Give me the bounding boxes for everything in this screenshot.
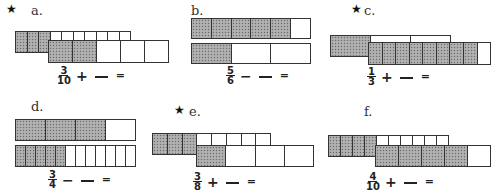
star-icon: ★ bbox=[174, 103, 185, 117]
empty-cell bbox=[65, 146, 75, 166]
answer-blank[interactable] bbox=[404, 182, 417, 184]
shaded-cell bbox=[45, 146, 55, 166]
operator: − bbox=[62, 172, 74, 188]
operator: + bbox=[381, 69, 393, 85]
shaded-cell bbox=[35, 146, 45, 166]
empty-cell bbox=[105, 120, 135, 140]
shaded-cell bbox=[72, 41, 96, 62]
shaded-cell bbox=[16, 120, 45, 140]
empty-cell bbox=[290, 19, 310, 38]
fraction: 56 bbox=[226, 66, 235, 85]
shaded-cell bbox=[197, 146, 225, 166]
expression: 34 − = bbox=[48, 170, 111, 189]
answer-blank[interactable] bbox=[259, 76, 272, 78]
denominator: 8 bbox=[194, 182, 201, 191]
problem-label: c. bbox=[364, 3, 375, 18]
answer-blank[interactable] bbox=[81, 180, 94, 182]
shaded-cell bbox=[331, 36, 370, 56]
shaded-cell bbox=[250, 19, 270, 38]
empty-cell bbox=[95, 146, 105, 166]
star-icon: ★ bbox=[351, 2, 362, 16]
empty-cell bbox=[255, 146, 284, 166]
fraction-bar-fourths bbox=[196, 145, 314, 167]
empty-cell bbox=[467, 146, 490, 166]
shaded-cell bbox=[421, 146, 444, 166]
shaded-cell bbox=[395, 43, 409, 64]
operator: + bbox=[207, 174, 219, 190]
problem-label: e. bbox=[189, 104, 201, 119]
shaded-cell bbox=[444, 146, 467, 166]
problem-label: b. bbox=[191, 3, 203, 18]
denominator: 10 bbox=[57, 76, 71, 85]
operator: + bbox=[76, 68, 88, 84]
shaded-cell bbox=[449, 43, 463, 64]
shaded-cell bbox=[376, 146, 398, 166]
shaded-cell bbox=[49, 41, 72, 62]
shaded-cell bbox=[422, 43, 436, 64]
equals-sign: = bbox=[102, 173, 111, 186]
empty-cell bbox=[96, 41, 120, 62]
expression: 38 + = bbox=[193, 172, 256, 191]
fraction-bar-fourths bbox=[15, 119, 136, 141]
shaded-cell bbox=[409, 43, 423, 64]
shaded-cell bbox=[192, 44, 231, 63]
shaded-cell bbox=[45, 120, 75, 140]
fraction: 410 bbox=[366, 172, 380, 191]
shaded-cell bbox=[369, 43, 382, 64]
denominator: 6 bbox=[227, 76, 234, 85]
shaded-cell bbox=[192, 19, 211, 38]
equals-sign: = bbox=[280, 69, 289, 82]
fraction-bar-sixths bbox=[191, 18, 311, 39]
shaded-cell bbox=[329, 136, 340, 156]
fraction-bar-ninths bbox=[368, 42, 491, 65]
problem-label: d. bbox=[31, 99, 43, 114]
denominator: 3 bbox=[368, 77, 375, 86]
fraction: 34 bbox=[48, 170, 57, 189]
equals-sign: = bbox=[421, 70, 430, 83]
denominator: 10 bbox=[366, 182, 380, 191]
fraction-bar-twelfths bbox=[15, 145, 136, 167]
equals-sign: = bbox=[425, 175, 434, 188]
shaded-cell bbox=[270, 19, 290, 38]
empty-cell bbox=[115, 146, 125, 166]
answer-blank[interactable] bbox=[400, 77, 413, 79]
shaded-cell bbox=[382, 43, 396, 64]
fraction: 13 bbox=[367, 67, 376, 86]
empty-cell bbox=[120, 41, 144, 62]
answer-blank[interactable] bbox=[226, 182, 239, 184]
fraction: 38 bbox=[193, 172, 202, 191]
shaded-cell bbox=[436, 43, 450, 64]
operator: − bbox=[240, 68, 252, 84]
empty-cell bbox=[144, 41, 168, 62]
empty-cell bbox=[231, 44, 271, 63]
equals-sign: = bbox=[247, 175, 256, 188]
shaded-cell bbox=[211, 19, 231, 38]
empty-cell bbox=[284, 146, 313, 166]
shaded-cell bbox=[27, 32, 39, 52]
answer-blank[interactable] bbox=[95, 76, 108, 78]
denominator: 4 bbox=[49, 180, 56, 189]
expression: 410 + = bbox=[366, 172, 434, 191]
shaded-cell bbox=[25, 146, 35, 166]
problem-label: a. bbox=[31, 3, 43, 18]
empty-cell bbox=[75, 146, 85, 166]
expression: 13 + = bbox=[367, 67, 430, 86]
empty-cell bbox=[477, 43, 491, 64]
shaded-cell bbox=[398, 146, 421, 166]
shaded-cell bbox=[55, 146, 65, 166]
star-icon: ★ bbox=[6, 2, 17, 16]
shaded-cell bbox=[231, 19, 251, 38]
shaded-cell bbox=[182, 134, 197, 154]
fraction: 310 bbox=[57, 66, 71, 85]
shaded-cell bbox=[16, 32, 27, 52]
empty-cell bbox=[105, 146, 115, 166]
empty-cell bbox=[270, 44, 310, 63]
empty-cell bbox=[85, 146, 95, 166]
empty-cell bbox=[225, 146, 254, 166]
empty-cell bbox=[125, 146, 135, 166]
operator: + bbox=[385, 174, 397, 190]
shaded-cell bbox=[167, 134, 182, 154]
shaded-cell bbox=[16, 146, 25, 166]
shaded-cell bbox=[153, 134, 167, 154]
fraction-bar-thirds bbox=[191, 43, 311, 64]
